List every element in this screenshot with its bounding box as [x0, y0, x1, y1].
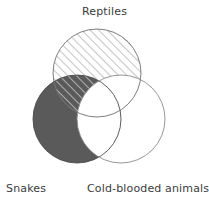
set-label-reptiles: Reptiles	[0, 5, 209, 18]
set-label-cold-blooded-animals: Cold-blooded animals	[87, 182, 209, 195]
set-label-snakes: Snakes	[6, 182, 46, 195]
venn-diagram-canvas	[0, 0, 209, 212]
venn-diagram-figure: Reptiles Snakes Cold-blooded animals	[0, 0, 209, 212]
